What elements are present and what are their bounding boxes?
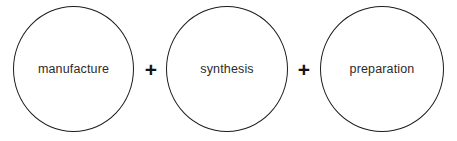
- plus-operator-icon: +: [293, 59, 315, 80]
- concept-circle-label: synthesis: [200, 62, 253, 75]
- concept-sum-diagram: manufacture + synthesis + preparation: [0, 0, 457, 141]
- concept-circle-label: manufacture: [38, 62, 109, 75]
- plus-operator-icon: +: [140, 59, 162, 80]
- concept-circle-label: preparation: [350, 62, 415, 75]
- concept-circle-manufacture[interactable]: manufacture: [13, 6, 134, 132]
- concept-circle-synthesis[interactable]: synthesis: [166, 6, 288, 132]
- concept-circle-preparation[interactable]: preparation: [320, 6, 444, 132]
